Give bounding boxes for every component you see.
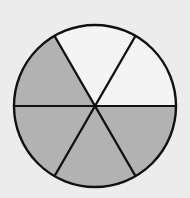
fraction-circle-diagram (0, 0, 190, 198)
